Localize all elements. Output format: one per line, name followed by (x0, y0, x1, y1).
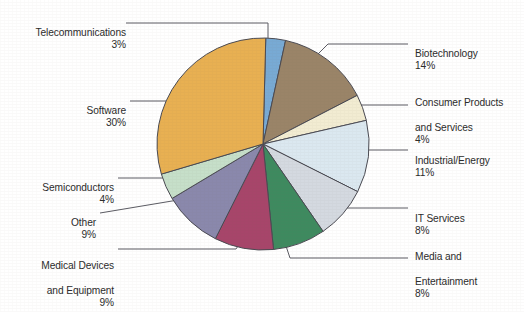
leader-line-telecommunications (126, 23, 268, 40)
pie-slices-group (157, 38, 369, 250)
pie-label-media-entertainment-text2: Entertainment (415, 276, 477, 287)
pie-label-media-entertainment-value: 8% (415, 288, 519, 301)
pie-label-medical-devices: Medical Devices and Equipment 9% (6, 247, 114, 312)
pie-label-media-entertainment-text: Media and (415, 251, 462, 262)
pie-label-other-text: Other (71, 217, 96, 228)
pie-label-telecommunications-value: 3% (8, 39, 126, 52)
pie-label-medical-devices-text2: and Equipment (47, 285, 114, 296)
pie-label-software: Software 30% (8, 92, 126, 142)
pie-label-industrial-energy-value: 11% (415, 167, 523, 180)
pie-label-medical-devices-value: 9% (6, 297, 114, 310)
pie-label-telecommunications: Telecommunications 3% (8, 14, 126, 64)
pie-label-media-entertainment: Media and Entertainment 8% (415, 238, 519, 312)
pie-label-it-services-value: 8% (415, 225, 515, 238)
pie-label-telecommunications-text: Telecommunications (36, 27, 127, 38)
pie-label-biotechnology-value: 14% (415, 60, 520, 73)
pie-label-industrial-energy: Industrial/Energy 11% (415, 142, 523, 192)
pie-label-biotechnology-text: Biotechnology (415, 48, 478, 59)
pie-chart-figure: Telecommunications 3% Software 30% Semic… (0, 0, 524, 312)
pie-label-consumer-products-text: Consumer Products (415, 97, 503, 108)
pie-label-biotechnology: Biotechnology 14% (415, 35, 520, 85)
pie-label-consumer-products-text2: and Services (415, 122, 473, 133)
pie-label-medical-devices-text: Medical Devices (41, 260, 114, 271)
pie-label-software-text: Software (87, 105, 126, 116)
pie-label-industrial-energy-text: Industrial/Energy (415, 155, 490, 166)
pie-label-it-services-text: IT Services (415, 213, 465, 224)
pie-label-software-value: 30% (8, 117, 126, 130)
pie-label-other-value: 9% (6, 229, 96, 242)
pie-label-semiconductors-text: Semiconductors (42, 182, 114, 193)
